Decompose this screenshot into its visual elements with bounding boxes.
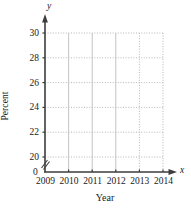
y-axis-letter: y <box>47 1 51 11</box>
y-tick-label: 22 <box>13 127 39 137</box>
y-tick-label: 20 <box>13 152 39 162</box>
y-axis-title: Percent <box>0 66 14 146</box>
vertical-gridlines-dotted <box>139 33 163 172</box>
x-tick-label: 2010 <box>57 176 81 186</box>
vertical-gridlines <box>69 33 116 172</box>
y-tick-label: 28 <box>13 53 39 63</box>
y-axis <box>42 14 48 172</box>
x-tick-label: 2013 <box>128 176 152 186</box>
x-tick-label: 2014 <box>152 176 176 186</box>
x-axis-letter: x <box>180 165 184 175</box>
x-axis-arrowhead <box>169 169 178 175</box>
x-axis <box>44 169 177 175</box>
x-tick-label: 2011 <box>81 176 105 186</box>
y-tick-label: 26 <box>13 78 39 88</box>
graph-figure: 30 28 26 24 22 20 0 2009 2010 2011 2012 … <box>0 0 191 214</box>
x-tick-label: 2012 <box>104 176 128 186</box>
x-tick-label: 2009 <box>34 176 58 186</box>
horizontal-gridlines <box>45 33 163 157</box>
x-axis-title: Year <box>45 192 165 203</box>
y-axis-arrowhead <box>42 14 48 23</box>
y-tick-label: 24 <box>13 102 39 112</box>
y-tick-label: 30 <box>13 28 39 38</box>
